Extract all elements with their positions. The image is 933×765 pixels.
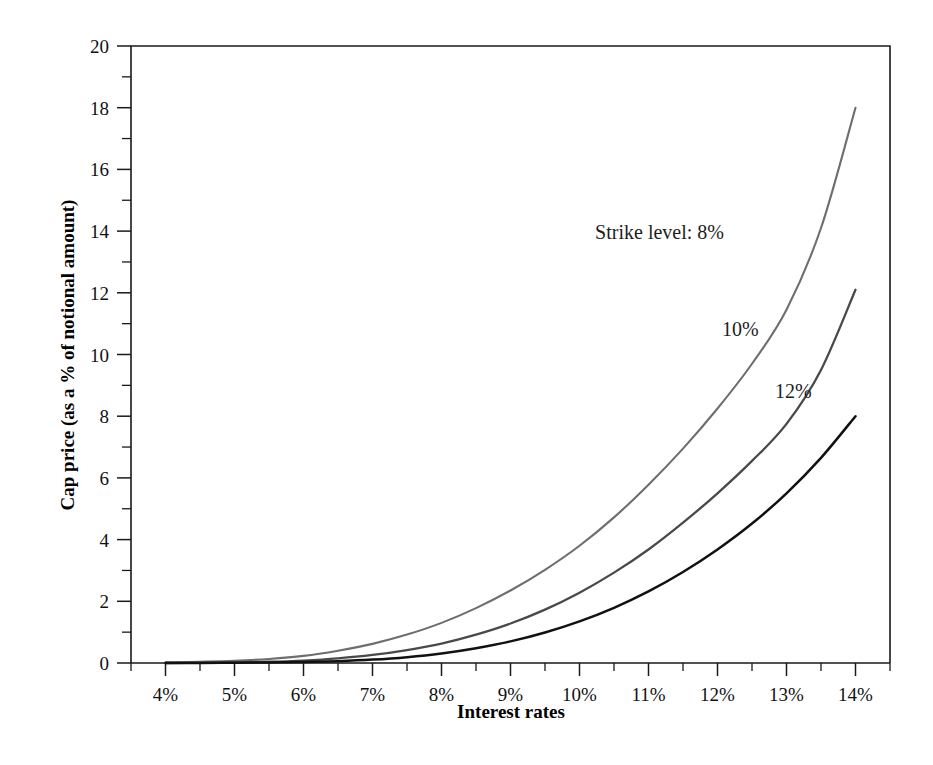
series-annotation-0: Strike level: 8% bbox=[595, 221, 724, 243]
y-tick-label: 16 bbox=[90, 159, 109, 180]
y-tick-label: 0 bbox=[100, 653, 110, 674]
x-tick-label: 12% bbox=[700, 684, 735, 705]
x-axis-title: Interest rates bbox=[457, 701, 565, 722]
y-tick-label: 18 bbox=[90, 98, 109, 119]
y-tick-label: 8 bbox=[100, 406, 110, 427]
x-tick-label: 10% bbox=[562, 684, 597, 705]
y-tick-label: 14 bbox=[90, 221, 110, 242]
x-tick-label: 14% bbox=[838, 684, 873, 705]
x-tick-label: 5% bbox=[222, 684, 248, 705]
x-tick-label: 8% bbox=[429, 684, 455, 705]
chart-figure: 4%5%6%7%8%9%10%11%12%13%14% 024681012141… bbox=[0, 0, 933, 765]
cap-price-line-chart: 4%5%6%7%8%9%10%11%12%13%14% 024681012141… bbox=[0, 0, 933, 765]
x-tick-label: 7% bbox=[360, 684, 386, 705]
y-axis-title: Cap price (as a % of notional amount) bbox=[57, 200, 79, 511]
x-tick-label: 13% bbox=[769, 684, 804, 705]
y-tick-label: 4 bbox=[100, 530, 110, 551]
y-tick-label: 12 bbox=[90, 283, 109, 304]
series-annotation-1: 10% bbox=[722, 318, 759, 340]
x-tick-label: 4% bbox=[153, 684, 179, 705]
y-tick-label: 10 bbox=[90, 345, 109, 366]
x-tick-label: 11% bbox=[631, 684, 665, 705]
y-tick-label: 20 bbox=[90, 36, 109, 57]
x-tick-label: 6% bbox=[291, 684, 317, 705]
series-annotation-2: 12% bbox=[775, 380, 812, 402]
y-tick-label: 6 bbox=[100, 468, 110, 489]
y-tick-label: 2 bbox=[100, 591, 110, 612]
